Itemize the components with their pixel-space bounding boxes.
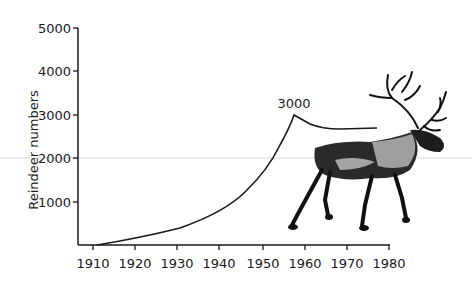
reindeer-neck-light <box>372 134 415 168</box>
x-tick-label: 1930 <box>160 256 193 271</box>
y-tick-label: 5000 <box>38 21 71 36</box>
x-tick-label: 1910 <box>76 256 109 271</box>
y-tick-label: 2000 <box>38 151 71 166</box>
population-line <box>97 115 377 245</box>
peak-annotation: 3000 <box>277 96 310 111</box>
reindeer-illustration <box>288 72 446 231</box>
y-tick-label: 3000 <box>38 108 71 123</box>
reindeer-population-chart: 1000 2000 3000 4000 5000 Reindeer number… <box>0 0 472 285</box>
x-tick-label: 1980 <box>372 256 405 271</box>
antlers-icon <box>370 72 446 131</box>
y-axis-title: Reindeer numbers <box>26 90 41 210</box>
x-tick-label: 1960 <box>288 256 321 271</box>
x-tick-label: 1920 <box>118 256 151 271</box>
x-tick-label: 1970 <box>330 256 363 271</box>
y-tick-label: 4000 <box>38 64 71 79</box>
y-tick-label: 1000 <box>38 195 71 210</box>
reindeer-hooves <box>288 214 410 231</box>
x-tick-label: 1950 <box>246 256 279 271</box>
x-tick-label: 1940 <box>202 256 235 271</box>
